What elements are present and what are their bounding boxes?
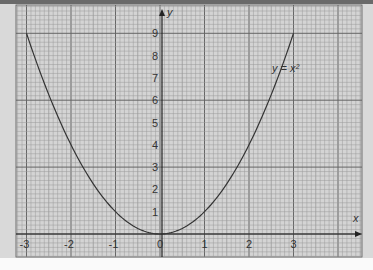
y-tick-label: 1 <box>152 206 158 218</box>
x-tick-label: 1 <box>202 238 208 250</box>
x-tick-label: 0 <box>157 238 163 250</box>
y-tick-label: 6 <box>152 94 158 106</box>
curve-label: y = x² <box>271 62 300 74</box>
y-tick-label: 3 <box>152 161 158 173</box>
y-tick-label: 4 <box>152 139 158 151</box>
x-tick-label: -2 <box>64 238 74 250</box>
parabola-chart: -3-2-10123123456789 y = x² x y <box>0 0 373 270</box>
y-tick-label: 5 <box>152 117 158 129</box>
x-tick-label: 2 <box>246 238 252 250</box>
y-tick-label: 2 <box>152 183 158 195</box>
y-tick-label: 8 <box>152 50 158 62</box>
grid <box>16 5 362 257</box>
x-tick-label: -3 <box>20 238 30 250</box>
y-tick-label: 7 <box>152 72 158 84</box>
x-tick-label: -1 <box>109 238 119 250</box>
x-axis-label: x <box>352 212 359 224</box>
x-tick-label: 3 <box>291 238 297 250</box>
y-tick-label: 9 <box>152 27 158 39</box>
